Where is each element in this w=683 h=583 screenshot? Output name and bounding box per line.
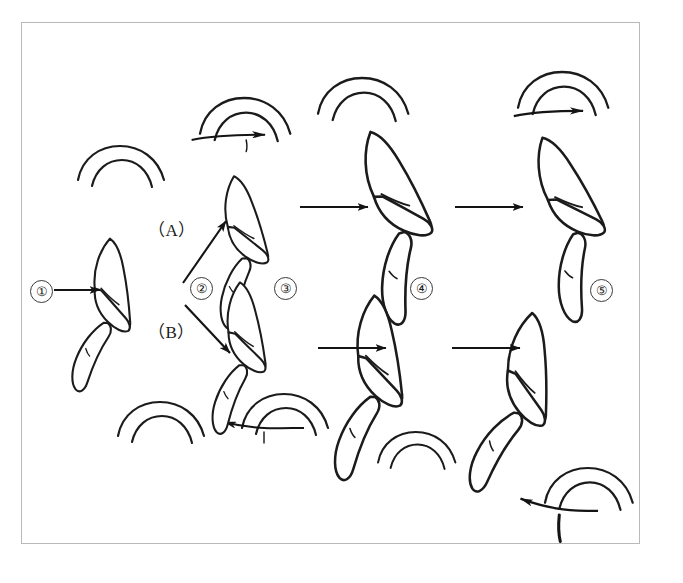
branch-label-a: （A） bbox=[148, 222, 196, 239]
figure-border bbox=[21, 22, 640, 544]
stage-badge-3: ③ bbox=[274, 277, 297, 300]
stage-badge-1: ① bbox=[30, 280, 53, 303]
stage-badge-2: ② bbox=[190, 277, 213, 300]
stage-badge-4: ④ bbox=[410, 277, 433, 300]
stage-badge-5: ⑤ bbox=[590, 279, 613, 302]
figure-root: ① ② ③ ④ ⑤ （A） （B） Swimming posture seque… bbox=[0, 0, 683, 583]
branch-label-b: （B） bbox=[148, 324, 195, 341]
